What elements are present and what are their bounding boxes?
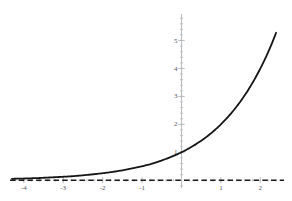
- plot-canvas: [0, 0, 292, 201]
- y-axis-tick-label: 3: [169, 93, 177, 100]
- exponential-curve: [12, 33, 276, 179]
- x-axis-tick-label: 2: [259, 185, 263, 192]
- x-axis-tick-label: -4: [21, 185, 27, 192]
- exponential-plot-figure: -4-3-2-112 12345: [0, 0, 292, 201]
- x-axis-tick-label: -1: [139, 185, 145, 192]
- x-axis-tick-label: -3: [60, 185, 66, 192]
- y-axis-tick-label: 1: [169, 149, 177, 156]
- y-axis-tick-label: 4: [169, 65, 177, 72]
- x-axis-tick-label: 1: [219, 185, 223, 192]
- y-axis-tick-label: 5: [169, 37, 177, 44]
- y-axis: [178, 14, 184, 188]
- y-axis-tick-label: 2: [169, 121, 177, 128]
- x-axis-tick-label: -2: [100, 185, 106, 192]
